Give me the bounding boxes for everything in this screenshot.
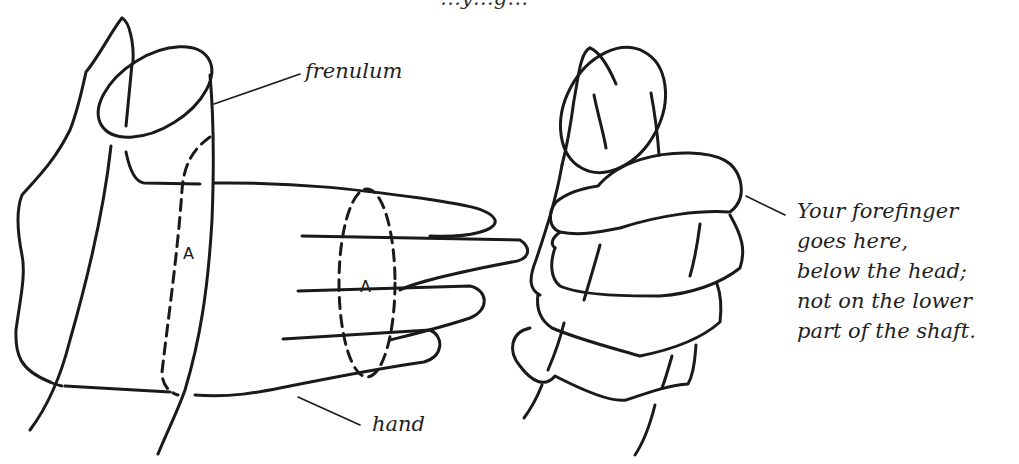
illustration-canvas: …y…g…: [0, 0, 1019, 464]
marker-a-shaft: A: [183, 244, 194, 263]
right-hand-drawing: [513, 29, 785, 455]
note-line: not on the lower: [797, 286, 976, 316]
forefinger-note: Your forefinger goes here, below the hea…: [797, 196, 976, 346]
frenulum-label: frenulum: [305, 56, 402, 86]
note-line: goes here,: [797, 226, 976, 256]
left-hand-drawing: [16, 18, 528, 454]
note-line: Your forefinger: [797, 196, 976, 226]
hand-label: hand: [372, 409, 425, 439]
note-line: below the head;: [797, 256, 976, 286]
marker-a-hand: A: [360, 277, 371, 296]
note-line: part of the shaft.: [797, 316, 976, 346]
